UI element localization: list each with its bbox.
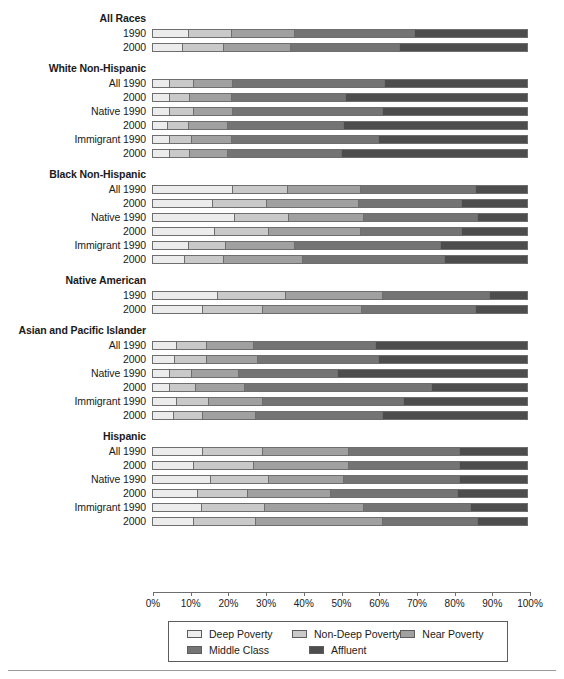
bar-segment-deep-poverty [153, 150, 170, 157]
bar-segment-non-deep-poverty [175, 356, 207, 363]
x-axis-tick-label: 40% [294, 598, 314, 609]
bar-segment-deep-poverty [153, 462, 194, 469]
bar-segment-deep-poverty [153, 136, 170, 143]
legend-swatch-icon [187, 630, 202, 638]
bar-segment-affluent [478, 214, 527, 221]
bar-segment-deep-poverty [153, 448, 203, 455]
bar-segment-middle-class [232, 94, 346, 101]
stacked-bar [152, 305, 528, 314]
bar-row-label: Immigrant 1990 [0, 501, 152, 514]
bar-row: 2000 [0, 486, 564, 500]
bar-segment-near-poverty [207, 342, 254, 349]
bar-segment-affluent [490, 292, 527, 299]
bar-row-label: 1990 [0, 289, 152, 302]
legend-item[interactable]: Non-Deep Poverty [292, 628, 400, 640]
legend-rows: Deep PovertyNon-Deep PovertyNear Poverty… [169, 622, 507, 658]
bar-segment-affluent [441, 242, 527, 249]
bar-segment-near-poverty [265, 504, 364, 511]
x-axis-tick [530, 592, 531, 596]
bar-segment-middle-class [258, 356, 380, 363]
legend-label: Middle Class [209, 644, 269, 656]
bar-segment-near-poverty [192, 136, 231, 143]
bar-row-label: All 1990 [0, 77, 152, 90]
bar-row-label: 2000 [0, 303, 152, 316]
bar-row-label: 2000 [0, 381, 152, 394]
chart-plot-area: All Races19902000White Non-HispanicAll 1… [0, 10, 564, 528]
bar-segment-middle-class [254, 342, 376, 349]
bar-row-label: Immigrant 1990 [0, 395, 152, 408]
bar-segment-near-poverty [267, 200, 359, 207]
stacked-bar-chart: All Races19902000White Non-HispanicAll 1… [0, 0, 564, 679]
x-axis-tick-label: 70% [407, 598, 427, 609]
bar-segment-near-poverty [256, 518, 383, 525]
bar-segment-affluent [460, 462, 527, 469]
bar-row: 2000 [0, 196, 564, 210]
bar-row-label: Immigrant 1990 [0, 133, 152, 146]
bar-segment-affluent [400, 44, 527, 51]
x-axis-tick [455, 592, 456, 596]
bar-segment-non-deep-poverty [185, 256, 224, 263]
bar-segment-deep-poverty [153, 342, 177, 349]
bar-row-label: 2000 [0, 41, 152, 54]
x-axis-tick [342, 592, 343, 596]
bar-segment-near-poverty [190, 94, 231, 101]
bar-segment-middle-class [364, 504, 471, 511]
bar-segment-affluent [376, 342, 527, 349]
bar-row: 2000 [0, 380, 564, 394]
bar-segment-deep-poverty [153, 108, 170, 115]
bar-segment-affluent [342, 150, 527, 157]
stacked-bar [152, 107, 528, 116]
legend-item[interactable]: Affluent [309, 644, 433, 656]
bar-row: Native 1990 [0, 366, 564, 380]
bar-row: All 1990 [0, 338, 564, 352]
bar-row: 2000 [0, 514, 564, 528]
group-header-row: Black Non-Hispanic [0, 166, 564, 182]
legend-item[interactable]: Middle Class [187, 644, 309, 656]
bar-segment-non-deep-poverty [189, 242, 226, 249]
bar-segment-middle-class [303, 256, 445, 263]
bar-segment-affluent [445, 256, 527, 263]
bar-segment-deep-poverty [153, 30, 189, 37]
bar-segment-affluent [385, 80, 527, 87]
bar-segment-near-poverty [226, 242, 295, 249]
bar-segment-affluent [383, 412, 527, 419]
stacked-bar [152, 517, 528, 526]
stacked-bar [152, 255, 528, 264]
bar-segment-near-poverty [263, 448, 349, 455]
bar-segment-middle-class [228, 150, 342, 157]
bar-row: Native 1990 [0, 472, 564, 486]
bar-row-label: Native 1990 [0, 105, 152, 118]
stacked-bar [152, 397, 528, 406]
group-header-label: Hispanic [0, 430, 152, 443]
x-axis-tick-label: 100% [517, 598, 543, 609]
bar-segment-middle-class [233, 108, 383, 115]
stacked-bar [152, 29, 528, 38]
bar-row-label: 2000 [0, 515, 152, 528]
bar-segment-non-deep-poverty [170, 150, 191, 157]
bar-segment-middle-class [361, 186, 477, 193]
stacked-bar [152, 447, 528, 456]
legend-label: Near Poverty [422, 628, 483, 640]
stacked-bar [152, 383, 528, 392]
bar-row: 2000 [0, 90, 564, 104]
bar-segment-non-deep-poverty [215, 228, 269, 235]
legend-item[interactable]: Deep Poverty [187, 628, 292, 640]
bar-row-label: Native 1990 [0, 367, 152, 380]
bar-row-label: 2000 [0, 197, 152, 210]
bar-segment-non-deep-poverty [170, 80, 194, 87]
x-axis-tick [266, 592, 267, 596]
bar-row: 2000 [0, 146, 564, 160]
bar-row-label: 2000 [0, 409, 152, 422]
bar-segment-non-deep-poverty [194, 518, 256, 525]
bar-segment-affluent [462, 200, 527, 207]
x-axis-tick [492, 592, 493, 596]
bar-segment-near-poverty [207, 356, 257, 363]
bar-row: All 1990 [0, 182, 564, 196]
bar-segment-non-deep-poverty [202, 504, 266, 511]
x-axis-tick-label: 80% [445, 598, 465, 609]
bar-segment-deep-poverty [153, 94, 170, 101]
bar-row: Native 1990 [0, 104, 564, 118]
legend-item[interactable]: Near Poverty [400, 628, 507, 640]
bar-segment-affluent [478, 518, 527, 525]
stacked-bar [152, 503, 528, 512]
